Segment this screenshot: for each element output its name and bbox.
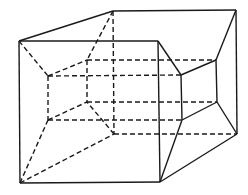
- hidden-edge: [48, 102, 87, 120]
- hidden-edge: [113, 11, 114, 134]
- visible-edge: [216, 10, 236, 60]
- hidden-edge: [19, 41, 48, 76]
- visible-edge: [181, 60, 216, 75]
- visible-edge: [158, 41, 181, 75]
- hidden-edge: [48, 60, 87, 76]
- visible-edge: [158, 41, 160, 182]
- hidden-edge: [87, 102, 114, 134]
- hidden-edge: [20, 134, 114, 183]
- visible-edge: [182, 102, 217, 120]
- visible-edge: [236, 10, 237, 134]
- visible-edge: [160, 134, 237, 182]
- visible-edge: [217, 102, 237, 134]
- visible-edge: [216, 60, 217, 102]
- visible-edge: [19, 41, 20, 183]
- tesseract-diagram: [0, 0, 248, 195]
- hidden-edge: [20, 120, 48, 183]
- visible-edge: [19, 11, 113, 41]
- visible-edge: [113, 10, 236, 11]
- visible-edge: [20, 182, 160, 183]
- visible-edge: [160, 120, 182, 182]
- hidden-edge: [48, 75, 181, 76]
- visible-edge: [181, 75, 182, 120]
